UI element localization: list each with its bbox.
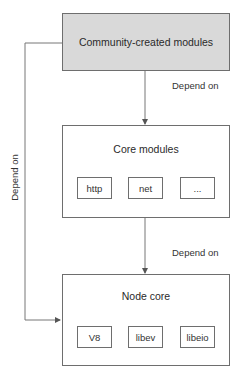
- node-core-libev: libev: [128, 326, 163, 348]
- core-modules-title: Core modules: [63, 143, 229, 155]
- edge-label-community-to-core: Depend on: [172, 80, 218, 91]
- edge-label-core-to-node: Depend on: [172, 247, 218, 258]
- node-core-title: Node core: [63, 290, 229, 302]
- core-module-net: net: [128, 177, 163, 199]
- node-core-box: Node core: [62, 274, 230, 366]
- core-module-more: ...: [180, 177, 215, 199]
- community-modules-label: Community-created modules: [79, 36, 213, 48]
- edge-label-community-to-node: Depend on: [9, 150, 20, 206]
- node-core-libeio: libeio: [180, 326, 215, 348]
- community-modules-box: Community-created modules: [62, 13, 230, 71]
- node-core-v8: V8: [77, 326, 112, 348]
- core-modules-box: Core modules: [62, 125, 230, 218]
- core-module-http: http: [77, 177, 112, 199]
